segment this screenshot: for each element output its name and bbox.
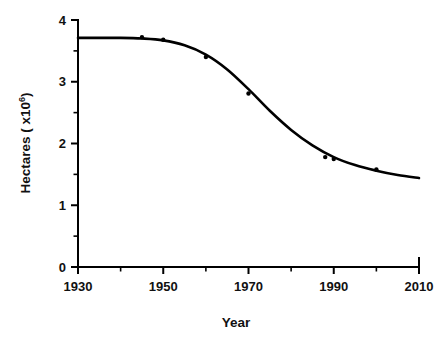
data-point — [140, 35, 144, 39]
data-point — [204, 55, 208, 59]
y-axis-title-tail: ) — [18, 92, 33, 97]
y-tick-label: 4 — [59, 13, 67, 28]
y-tick-label: 3 — [59, 74, 66, 89]
y-axis-title-main: Hectares ( x10 — [18, 102, 33, 194]
data-point — [374, 167, 378, 171]
y-tick-label: 0 — [59, 260, 66, 275]
x-axis-title: Year — [222, 315, 251, 330]
x-tick-label: 1950 — [149, 279, 178, 294]
y-tick-label: 1 — [59, 198, 66, 213]
x-tick-label: 1990 — [319, 279, 348, 294]
y-tick-label: 2 — [59, 136, 66, 151]
data-point — [161, 38, 165, 42]
x-tick-label: 2010 — [405, 279, 434, 294]
x-tick-label: 1970 — [234, 279, 263, 294]
data-point — [323, 155, 327, 159]
x-tick-label: 1930 — [64, 279, 93, 294]
y-axis-title-group: Hectares ( x106) — [17, 92, 33, 193]
data-point — [246, 91, 250, 95]
y-axis-title: Hectares ( x106) — [17, 92, 33, 193]
data-point — [332, 157, 336, 161]
chart-figure: 01234 19301950197019902010 Year Hectares… — [0, 0, 445, 343]
